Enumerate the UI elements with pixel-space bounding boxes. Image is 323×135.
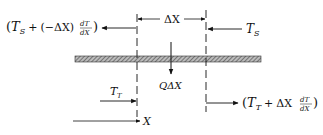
svg-text:T: T bbox=[117, 92, 123, 100]
svg-text:): ) bbox=[313, 95, 318, 110]
top-left-flux: (TS+(−ΔX) dT dX ) bbox=[6, 19, 136, 37]
bottom-left-flux: T T bbox=[100, 85, 136, 101]
top-left-flux-label: (TS+(−ΔX) bbox=[6, 19, 74, 36]
delta-x-dimension: ΔX bbox=[138, 13, 205, 26]
svg-text:ΔX: ΔX bbox=[164, 13, 180, 26]
svg-text:S: S bbox=[254, 29, 260, 38]
svg-text:): ) bbox=[93, 19, 98, 34]
x-axis: X bbox=[73, 115, 152, 128]
heat-source: QΔX bbox=[159, 42, 182, 91]
x-axis-label: X bbox=[142, 115, 152, 128]
bottom-right-flux-label: (TT+ΔX bbox=[242, 95, 292, 112]
dts-numerator: dT bbox=[80, 20, 90, 28]
heat-balance-diagram: ΔX (TS+(−ΔX) dT dX ) T S QΔX T T (TT+ΔX … bbox=[0, 0, 323, 135]
dx-denominator: dX bbox=[80, 29, 90, 37]
bottom-right-flux: (TT+ΔX dT dX ) bbox=[206, 95, 318, 113]
top-right-flux: T S bbox=[208, 22, 260, 38]
dx-denominator: dX bbox=[300, 105, 310, 113]
q-delta-x-label: QΔX bbox=[159, 80, 182, 91]
rod-element bbox=[75, 56, 261, 62]
delta-x-label: ΔX bbox=[164, 13, 180, 26]
dtt-numerator: dT bbox=[300, 96, 310, 104]
